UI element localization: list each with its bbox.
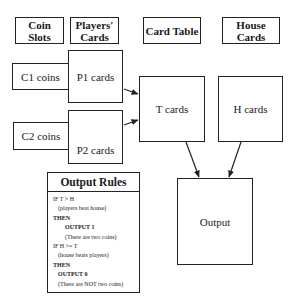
node-t-label: T cards xyxy=(156,103,188,115)
rule-line: (There are NOT two coins) xyxy=(53,280,139,289)
header-card-table: Card Table xyxy=(143,17,201,44)
rule-line: THEN xyxy=(53,214,139,223)
node-c2-label: C2 coins xyxy=(22,130,61,142)
node-c1-coins: C1 coins xyxy=(12,63,69,90)
node-output: Output xyxy=(177,178,253,265)
rule-line: OUTPUT 0 xyxy=(53,270,139,279)
output-rules-body: IF T > H (players beat house) THEN OUTPU… xyxy=(48,192,139,289)
node-t-cards: T cards xyxy=(139,76,205,142)
node-p2-cards: P2 cards xyxy=(68,110,123,164)
node-h-label: H cards xyxy=(234,103,268,115)
rule-line: IF H >= T xyxy=(53,242,139,251)
node-output-label: Output xyxy=(200,216,231,228)
arrow-p2-to-t xyxy=(124,120,138,125)
header-players-cards: Players' Cards xyxy=(70,17,119,44)
header-coin-slots: Coin Slots xyxy=(15,17,64,44)
node-c2-coins: C2 coins xyxy=(13,122,69,150)
arrow-p1-to-t xyxy=(124,89,138,94)
node-c1-label: C1 coins xyxy=(21,71,60,83)
rule-line: (players beat house) xyxy=(53,204,139,213)
header-coin-slots-label: Coin Slots xyxy=(22,19,58,43)
rule-line: IF T > H xyxy=(53,195,139,204)
rule-line: OUTPUT 1 xyxy=(53,223,139,232)
output-rules-title: Output Rules xyxy=(48,173,139,192)
rule-line: (There are two coins) xyxy=(53,233,139,242)
node-h-cards: H cards xyxy=(218,76,283,142)
rule-line: (house beats players) xyxy=(53,251,139,260)
node-p1-label: P1 cards xyxy=(77,71,115,83)
arrow-t-to-output xyxy=(186,142,199,177)
header-house-cards: House Cards xyxy=(222,17,280,44)
node-p1-cards: P1 cards xyxy=(68,50,123,103)
header-players-cards-label: Players' Cards xyxy=(73,19,117,43)
arrow-h-to-output xyxy=(229,142,241,177)
header-house-cards-label: House Cards xyxy=(233,19,269,43)
rule-line: THEN xyxy=(53,261,139,270)
node-p2-label: P2 cards xyxy=(77,144,115,156)
header-card-table-label: Card Table xyxy=(146,25,199,37)
output-rules-panel: Output Rules IF T > H (players beat hous… xyxy=(47,172,140,293)
